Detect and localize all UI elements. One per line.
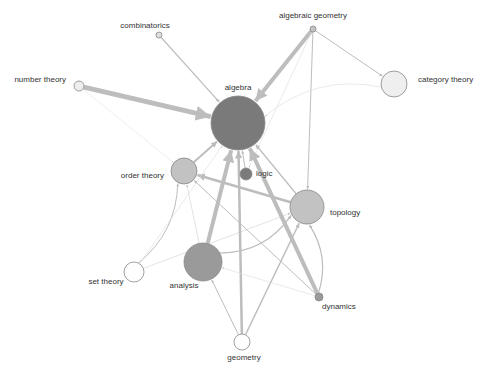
node-label-category-theory: category theory (418, 75, 473, 84)
node-label-geometry: geometry (227, 353, 260, 362)
node-number-theory[interactable] (74, 81, 84, 91)
node-label-analysis: analysis (170, 281, 199, 290)
node-label-algebra: algebra (225, 83, 252, 92)
edge-dynamics-to-analysis (222, 268, 315, 296)
node-category-theory[interactable] (381, 71, 407, 97)
node-combinatorics[interactable] (156, 32, 162, 38)
node-geometry[interactable] (234, 334, 250, 350)
node-label-algebraic-geometry: algebraic geometry (279, 11, 347, 20)
edge-set-theory-to-order-theory (138, 184, 177, 263)
node-topology[interactable] (290, 190, 324, 224)
node-label-combinatorics: combinatorics (120, 21, 169, 30)
edge-analysis-to-order-theory (187, 185, 199, 244)
edge-algebraic-geometry-to-topology (308, 32, 313, 189)
edge-number-theory-to-order-theory (83, 89, 173, 162)
node-label-logic: logic (256, 169, 272, 178)
node-label-number-theory: number theory (14, 75, 66, 84)
edge-layer (83, 31, 383, 335)
edge-order-theory-to-algebra (194, 142, 217, 163)
node-analysis[interactable] (184, 243, 222, 281)
edge-geometry-to-analysis (212, 280, 239, 335)
node-algebraic-geometry[interactable] (310, 26, 316, 32)
node-set-theory[interactable] (124, 262, 144, 282)
node-label-set-theory: set theory (88, 277, 123, 286)
node-algebra[interactable] (211, 96, 265, 150)
edge-combinatorics-to-algebra (161, 37, 219, 102)
node-dynamics[interactable] (315, 293, 323, 301)
edge-category-theory-to-algebra (265, 84, 381, 116)
edge-analysis-to-topology (220, 215, 291, 253)
edge-number-theory-to-algebra (84, 87, 211, 117)
edge-algebraic-geometry-to-category-theory (315, 31, 382, 76)
edge-algebraic-geometry-to-algebra (255, 31, 311, 101)
network-graph: algebraalgebraic geometrycombinatoricsnu… (0, 0, 487, 377)
edge-geometry-to-algebra (239, 151, 242, 334)
node-label-dynamics: dynamics (322, 302, 356, 311)
node-order-theory[interactable] (171, 158, 197, 184)
edge-logic-to-algebra (242, 151, 245, 168)
node-label-order-theory: order theory (121, 171, 164, 180)
node-logic[interactable] (240, 168, 252, 180)
node-label-topology: topology (330, 208, 360, 217)
label-layer: algebraalgebraic geometrycombinatoricsnu… (14, 11, 473, 362)
